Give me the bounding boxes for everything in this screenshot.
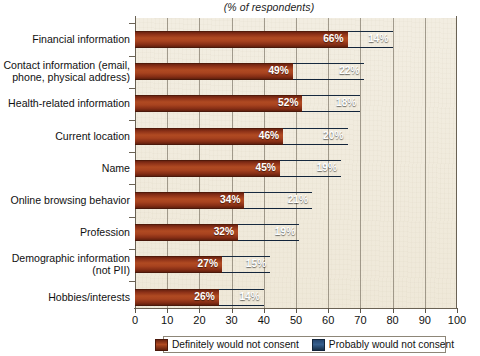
bar-segment-probably: 19% xyxy=(238,224,299,241)
legend-item-definitely: Definitely would not consent xyxy=(155,339,299,351)
category-label-3: Current location xyxy=(0,130,130,142)
category-label-6: Profession xyxy=(0,226,130,238)
gridline-90 xyxy=(425,18,426,308)
chart-title: (% of respondents) xyxy=(0,1,480,13)
bar-segment-definitely: 26% xyxy=(135,289,219,306)
category-label-line: Contact information (email, xyxy=(0,59,130,71)
plot-right-border xyxy=(456,16,457,309)
bar-value-probably: 18% xyxy=(336,97,356,108)
bar-segment-probably: 15% xyxy=(222,256,270,273)
legend-swatch-red-icon xyxy=(155,339,168,351)
x-tick-0 xyxy=(135,308,136,313)
bar-segment-definitely: 45% xyxy=(135,160,280,177)
bar-row: 46%20% xyxy=(135,128,348,145)
x-tick-label-100: 100 xyxy=(437,314,477,326)
bar-row: 52%18% xyxy=(135,95,360,112)
bar-segment-definitely: 49% xyxy=(135,63,293,80)
bar-value-probably: 21% xyxy=(288,194,308,205)
bar-value-probably: 14% xyxy=(239,291,259,302)
bar-segment-definitely: 27% xyxy=(135,256,222,273)
bar-value-probably: 19% xyxy=(275,226,295,237)
category-label-line: Current location xyxy=(0,130,130,142)
category-label-8: Hobbies/interests xyxy=(0,291,130,303)
bar-value-probably: 19% xyxy=(317,162,337,173)
bar-value-definitely: 46% xyxy=(259,130,279,141)
x-tick-90 xyxy=(425,308,426,313)
bar-segment-definitely: 32% xyxy=(135,224,238,241)
x-tick-40 xyxy=(264,308,265,313)
category-label-5: Online browsing behavior xyxy=(0,194,130,206)
category-label-line: Financial information xyxy=(0,33,130,45)
bar-row: 34%21% xyxy=(135,192,312,209)
legend-item-probably: Probably would not consent xyxy=(312,339,454,351)
bar-segment-probably: 14% xyxy=(219,289,264,306)
x-tick-100 xyxy=(457,308,458,313)
bar-segment-probably: 20% xyxy=(283,128,347,145)
category-label-line: Profession xyxy=(0,226,130,238)
x-tick-70 xyxy=(360,308,361,313)
legend-swatch-blue-icon xyxy=(312,339,325,351)
gridline-80 xyxy=(393,18,394,308)
bar-value-definitely: 32% xyxy=(214,226,234,237)
gridline-70 xyxy=(360,18,361,308)
bar-value-definitely: 66% xyxy=(323,33,343,44)
bar-row: 45%19% xyxy=(135,160,341,177)
bar-row: 49%22% xyxy=(135,63,364,80)
bar-value-definitely: 26% xyxy=(194,291,214,302)
bar-value-definitely: 34% xyxy=(220,194,240,205)
bar-value-probably: 20% xyxy=(323,130,343,141)
bar-value-probably: 15% xyxy=(246,258,266,269)
bar-value-probably: 14% xyxy=(368,33,388,44)
x-tick-10 xyxy=(167,308,168,313)
bar-row: 26%14% xyxy=(135,289,264,306)
category-label-7: Demographic information(not PII) xyxy=(0,252,130,276)
category-label-2: Health-related information xyxy=(0,97,130,109)
category-label-line: (not PII) xyxy=(0,264,130,276)
x-tick-60 xyxy=(328,308,329,313)
x-tick-30 xyxy=(232,308,233,313)
x-tick-80 xyxy=(393,308,394,313)
bar-value-definitely: 49% xyxy=(268,65,288,76)
category-label-4: Name xyxy=(0,162,130,174)
bar-row: 66%14% xyxy=(135,31,393,48)
bar-segment-definitely: 46% xyxy=(135,128,283,145)
category-label-line: Demographic information xyxy=(0,252,130,264)
bar-segment-definitely: 52% xyxy=(135,95,302,112)
bar-value-probably: 22% xyxy=(339,65,359,76)
bar-value-definitely: 52% xyxy=(278,97,298,108)
x-tick-20 xyxy=(199,308,200,313)
bar-row: 32%19% xyxy=(135,224,299,241)
x-tick-50 xyxy=(296,308,297,313)
legend-label-probably: Probably would not consent xyxy=(329,339,454,350)
bar-value-definitely: 45% xyxy=(256,162,276,173)
category-label-line: phone, physical address) xyxy=(0,71,130,83)
bar-segment-definitely: 66% xyxy=(135,31,348,48)
category-label-1: Contact information (email,phone, physic… xyxy=(0,59,130,83)
bar-row: 27%15% xyxy=(135,256,270,273)
category-label-line: Online browsing behavior xyxy=(0,194,130,206)
bar-segment-probably: 19% xyxy=(280,160,341,177)
chart-legend: Definitely would not consent Probably wo… xyxy=(163,336,446,353)
category-label-line: Hobbies/interests xyxy=(0,291,130,303)
bar-segment-probably: 21% xyxy=(244,192,312,209)
bar-segment-probably: 22% xyxy=(293,63,364,80)
category-label-0: Financial information xyxy=(0,33,130,45)
category-label-line: Name xyxy=(0,162,130,174)
bar-segment-definitely: 34% xyxy=(135,192,244,209)
chart-root: (% of respondents) 010203040506070809010… xyxy=(0,0,480,356)
legend-label-definitely: Definitely would not consent xyxy=(172,339,299,350)
bar-segment-probably: 18% xyxy=(302,95,360,112)
bar-value-definitely: 27% xyxy=(198,258,218,269)
category-label-line: Health-related information xyxy=(0,97,130,109)
bar-segment-probably: 14% xyxy=(348,31,393,48)
